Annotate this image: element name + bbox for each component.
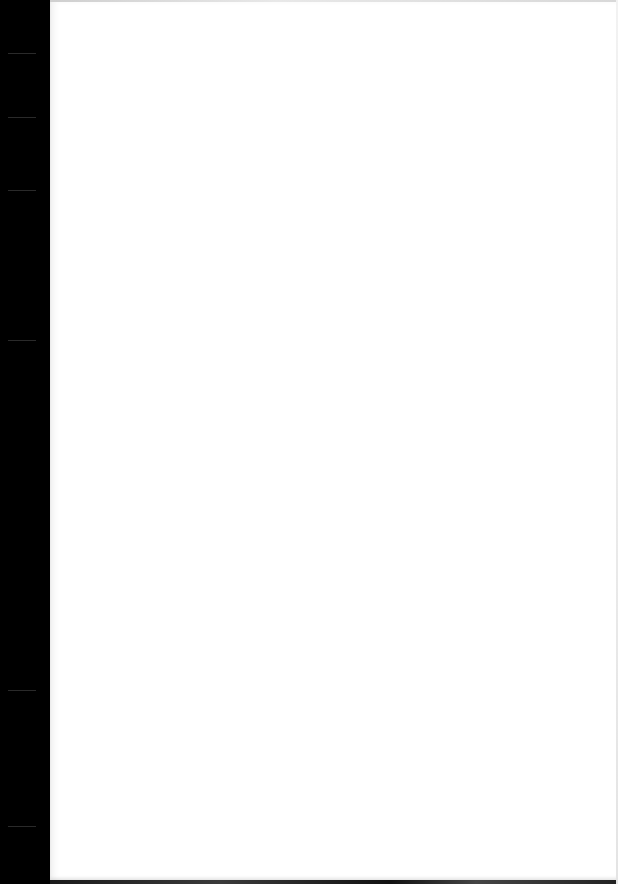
paper-top-edge	[50, 0, 618, 2]
background-mark	[8, 690, 36, 691]
background-mark	[8, 53, 36, 54]
background-mark	[8, 826, 36, 827]
background-mark	[8, 117, 36, 118]
background-mark	[8, 190, 36, 191]
paper-bottom-edge	[50, 880, 618, 884]
background-mark	[8, 340, 36, 341]
blank-paper-sheet	[50, 0, 618, 880]
